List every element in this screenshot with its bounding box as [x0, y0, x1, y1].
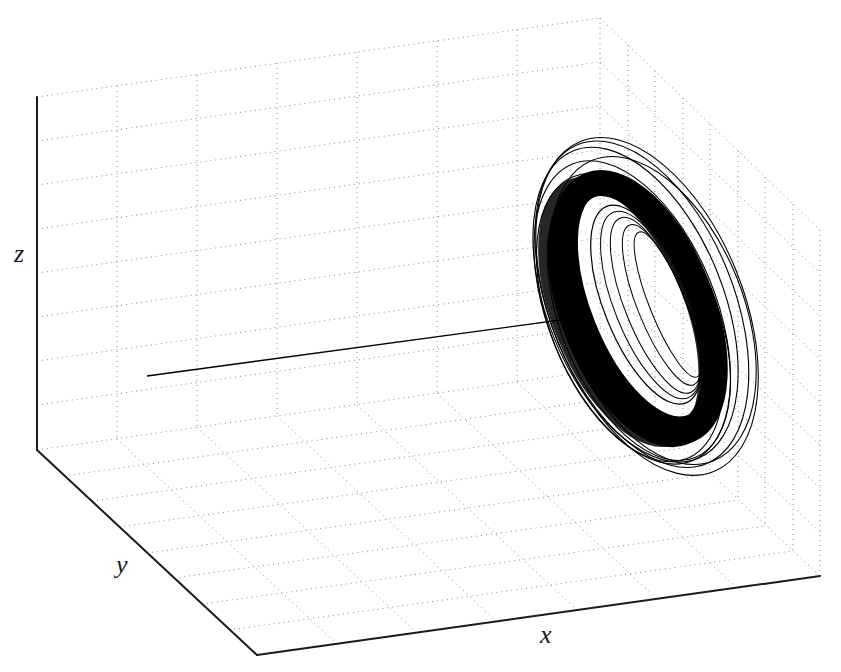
x-axis-label: x — [540, 622, 552, 648]
y-axis-line — [37, 450, 257, 655]
back-wall-grid — [37, 18, 600, 450]
attractor — [488, 105, 803, 509]
z-axis-label: z — [14, 241, 24, 267]
x-axis-line — [257, 576, 820, 655]
y-axis-label: y — [116, 552, 128, 578]
transient-trajectory — [147, 316, 590, 376]
